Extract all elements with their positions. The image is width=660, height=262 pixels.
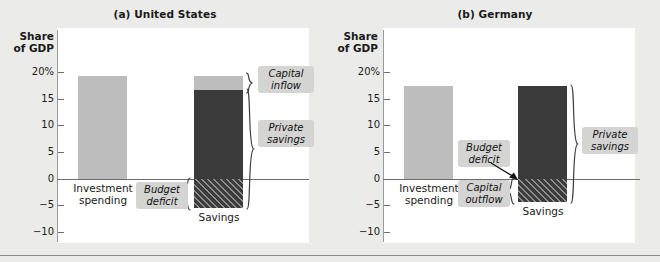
figure-bottom-rule bbox=[0, 255, 660, 256]
y-axis-title-line2: of GDP bbox=[2, 42, 54, 54]
y-ticklabel-0-a: 0 bbox=[14, 173, 54, 184]
callout-budget-deficit-a-line2: deficit bbox=[146, 196, 177, 207]
bar-capital-outflow-b bbox=[518, 179, 567, 202]
bar-private-savings-a bbox=[194, 90, 243, 179]
y-ticklabel-neg5-b: −5 bbox=[340, 199, 380, 210]
callout-capital-inflow-a-line2: inflow bbox=[271, 80, 301, 91]
callout-private-savings-a-line2: savings bbox=[267, 134, 305, 145]
y-tick-15-a bbox=[58, 99, 64, 100]
y-tick-5-a bbox=[58, 152, 64, 153]
y-ticklabel-neg5-a: −5 bbox=[14, 199, 54, 210]
panel-title-a: (a) United States bbox=[0, 8, 330, 20]
y-ticklabel-5-a: 5 bbox=[14, 146, 54, 157]
bar-private-savings-b bbox=[518, 86, 567, 179]
y-ticklabel-15-b: 15 bbox=[340, 93, 380, 104]
bar-label-investment-a-line2: spending bbox=[62, 194, 144, 206]
y-tick-20-b bbox=[384, 72, 390, 73]
y-axis-line-a bbox=[57, 30, 58, 242]
y-tick-5-b bbox=[384, 152, 390, 153]
callout-capital-inflow-a: Capital inflow bbox=[258, 66, 314, 93]
y-ticklabel-10-b: 10 bbox=[340, 119, 380, 130]
panel-title-b: (b) Germany bbox=[330, 8, 660, 20]
bar-investment-spending-b bbox=[404, 86, 453, 179]
callout-budget-deficit-a-line1: Budget bbox=[144, 184, 180, 195]
y-axis-title-line1: Share bbox=[2, 30, 54, 42]
y-axis-line-b bbox=[383, 30, 384, 242]
y-axis-title-b-line1: Share bbox=[330, 30, 378, 42]
y-ticklabel-20-a: 20% bbox=[14, 66, 54, 77]
y-tick-15-b bbox=[384, 99, 390, 100]
bar-label-savings-b: Savings bbox=[508, 205, 578, 217]
brace-private-savings-b bbox=[569, 84, 579, 204]
callout-private-savings-a: Private savings bbox=[258, 120, 314, 147]
y-axis-title-b-line2: of GDP bbox=[330, 42, 378, 54]
callout-capital-inflow-a-line1: Capital bbox=[268, 68, 303, 79]
figure-container: (a) United States Share of GDP 20% 15 10… bbox=[0, 0, 660, 262]
panel-germany: (b) Germany Share of GDP 20% 15 10 5 0 −… bbox=[330, 0, 660, 252]
callout-capital-outflow-b-line1: Capital bbox=[466, 182, 501, 193]
y-ticklabel-5-b: 5 bbox=[340, 146, 380, 157]
callout-budget-deficit-a: Budget deficit bbox=[136, 182, 188, 209]
y-ticklabel-neg10-a: −10 bbox=[14, 226, 54, 237]
callout-budget-deficit-b-line1: Budget bbox=[466, 142, 502, 153]
bar-label-savings-a: Savings bbox=[184, 211, 254, 223]
bar-budget-deficit-a bbox=[194, 179, 243, 208]
callout-private-savings-a-line1: Private bbox=[268, 122, 303, 133]
y-ticklabel-15-a: 15 bbox=[14, 93, 54, 104]
callout-capital-outflow-b: Capital outflow bbox=[458, 180, 510, 207]
bar-investment-spending-a bbox=[78, 76, 127, 179]
y-ticklabel-0-b: 0 bbox=[340, 173, 380, 184]
callout-private-savings-b-line2: savings bbox=[591, 141, 629, 152]
y-tick-10-a bbox=[58, 125, 64, 126]
y-tick-10-b bbox=[384, 125, 390, 126]
y-ticklabel-10-a: 10 bbox=[14, 119, 54, 130]
y-tick-neg10-b bbox=[384, 232, 390, 233]
bar-capital-inflow-a bbox=[194, 76, 243, 90]
callout-private-savings-b: Private savings bbox=[582, 127, 638, 154]
panel-united-states: (a) United States Share of GDP 20% 15 10… bbox=[0, 0, 330, 252]
brace-private-savings-a bbox=[245, 88, 255, 210]
y-tick-neg10-a bbox=[58, 232, 64, 233]
y-ticklabel-20-b: 20% bbox=[340, 66, 380, 77]
callout-private-savings-b-line1: Private bbox=[592, 129, 627, 140]
bar-label-investment-a-line1: Investment bbox=[62, 182, 144, 194]
callout-capital-outflow-b-line2: outflow bbox=[465, 194, 502, 205]
y-tick-20-a bbox=[58, 72, 64, 73]
y-ticklabel-neg10-b: −10 bbox=[340, 226, 380, 237]
